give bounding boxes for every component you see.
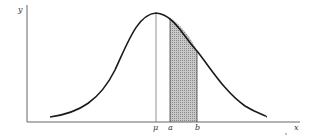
b-label: b (195, 123, 200, 132)
mean-label: μ (153, 123, 158, 132)
bell-curve (50, 13, 266, 117)
normal-curve-diagram: y x μ a b (0, 0, 314, 138)
x-axis-label: x (294, 123, 299, 132)
stray-dot (285, 133, 286, 134)
y-axis-label: y (17, 5, 23, 14)
diagram-svg: y x μ a b (0, 0, 314, 138)
a-label: a (168, 123, 173, 132)
